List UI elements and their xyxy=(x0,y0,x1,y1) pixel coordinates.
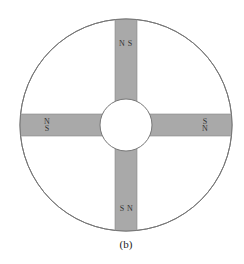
left-magnet-pole-2: S xyxy=(45,124,49,133)
right-magnet-pole-2: N xyxy=(202,124,208,133)
top-magnet-pole-1: N xyxy=(119,39,125,48)
magnet-left xyxy=(18,114,108,136)
magnet-bottom xyxy=(115,145,137,237)
bottom-magnet-pole-2: N xyxy=(127,204,133,213)
top-magnet-pole-2: S xyxy=(128,39,132,48)
magnet-top xyxy=(115,15,137,105)
rotor-diagram: N S N S S N S N (b) xyxy=(0,0,244,264)
bottom-magnet-pole-1: S xyxy=(120,204,124,213)
magnet-right xyxy=(144,114,236,136)
inner-circle xyxy=(100,99,152,151)
figure-caption: (b) xyxy=(120,238,133,251)
